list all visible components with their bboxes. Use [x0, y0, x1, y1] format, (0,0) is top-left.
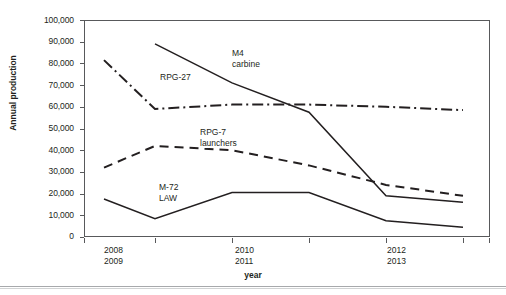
chart-figure: Annual production 100,000 90,000 80,000 … [0, 0, 506, 295]
y-axis: 100,000 90,000 80,000 70,000 60,000 50,0… [0, 0, 84, 258]
series-label-m-72-law: M-72 LAW [158, 182, 179, 203]
series-label-rpg-7-launchers: RPG-7 launchers [199, 127, 238, 148]
y-tick-label: 10,000 [49, 211, 74, 220]
x-tick-mark [84, 238, 85, 243]
x-tick-label-top: 2008 [104, 245, 123, 256]
y-tick-label: 80,000 [49, 59, 74, 68]
x-tick-label-bottom: 2009 [104, 256, 123, 267]
y-tick-label: 20,000 [49, 189, 74, 198]
footer-rule [0, 286, 506, 287]
series-label-rpg-27: RPG-27 [159, 72, 192, 83]
series-label-line-1: M4 [232, 48, 260, 59]
x-tick-mark [232, 238, 233, 243]
series-line-m4-carbine [155, 44, 463, 202]
x-tick-mark [155, 238, 156, 243]
x-tick-mark [309, 238, 310, 243]
y-tick-label: 90,000 [49, 37, 74, 46]
series-label-line-2: carbine [232, 59, 260, 70]
x-tick-label-2012-2013: 2012 2013 [387, 245, 406, 267]
y-tick-label: 100,000 [44, 16, 74, 25]
footer-rule-secondary [0, 288, 506, 289]
x-axis-title: year [0, 270, 506, 280]
series-layer [84, 20, 490, 237]
y-tick-label: 50,000 [49, 124, 74, 133]
x-tick-label-bottom: 2013 [387, 256, 406, 267]
y-tick-label: 60,000 [49, 102, 74, 111]
y-tick-label: 40,000 [49, 146, 74, 155]
x-tick-label-top: 2012 [387, 245, 406, 256]
x-tick-label-2010-2011: 2010 2011 [235, 245, 254, 267]
series-label-line-1: RPG-27 [160, 72, 191, 83]
x-tick-label-2008-2009: 2008 2009 [104, 245, 123, 267]
y-tick-label: 70,000 [49, 81, 74, 90]
x-tick-mark [489, 238, 490, 243]
x-tick-mark [463, 238, 464, 243]
x-tick-mark [386, 238, 387, 243]
y-tick-label: 30,000 [49, 167, 74, 176]
series-label-m4-carbine: M4 carbine [231, 48, 261, 69]
x-tick-label-top: 2010 [235, 245, 254, 256]
series-label-line-2: LAW [159, 193, 178, 204]
series-label-line-2: launchers [200, 138, 237, 149]
series-label-line-1: RPG-7 [200, 127, 237, 138]
x-tick-label-bottom: 2011 [235, 256, 254, 267]
y-tick-label: 0 [69, 232, 74, 241]
series-label-line-1: M-72 [159, 182, 178, 193]
